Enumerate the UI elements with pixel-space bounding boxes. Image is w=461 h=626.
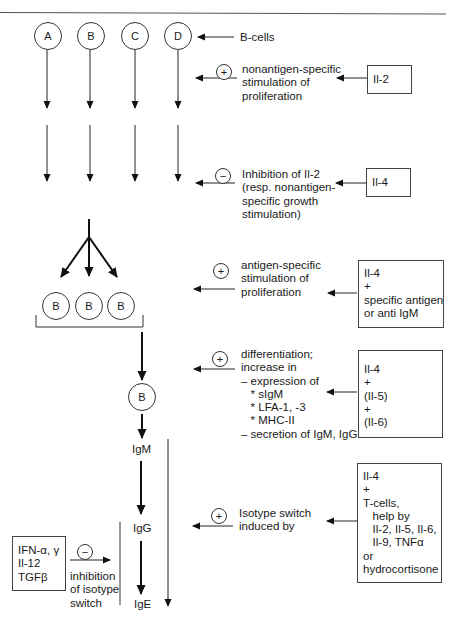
b-cell-a: A	[34, 22, 62, 50]
b-cells-label: B-cells	[240, 31, 275, 44]
igm-label: IgM	[132, 443, 151, 456]
sign-glyph: +	[217, 354, 223, 365]
b-cell-b: B	[77, 22, 105, 50]
clonal-fan	[61, 219, 117, 277]
sign-glyph: −	[82, 547, 88, 558]
factor-box-il4-antigen: Il-4 + specific antigen or anti IgM	[358, 260, 444, 328]
factor-box-il4: Il-4	[366, 168, 411, 197]
step-3-text: antigen-specific stimulation of prolifer…	[241, 259, 321, 299]
minus-sign-icon: −	[215, 168, 231, 184]
plus-sign-icon: +	[213, 263, 229, 279]
ige-label: IgE	[134, 598, 151, 611]
cell-label: B	[87, 30, 94, 42]
sign-glyph: +	[218, 266, 224, 277]
plus-sign-icon: +	[212, 351, 228, 367]
sign-glyph: +	[221, 67, 227, 78]
factor-box-ifn-il12-tgfb: IFN-α, γ Il-12 TGFβ	[12, 536, 66, 591]
cell-label: B	[52, 300, 59, 312]
plus-sign-icon: +	[211, 508, 227, 524]
clonal-b-cell-2: B	[75, 292, 103, 320]
step-4-text: differentiation; increase in – expressio…	[241, 348, 357, 441]
cell-label: A	[44, 30, 51, 42]
step-arrows	[193, 37, 237, 526]
cell-label: B	[138, 391, 145, 403]
cell-label: C	[131, 30, 139, 42]
cell-label: D	[174, 30, 182, 42]
sign-glyph: −	[220, 171, 226, 182]
igg-label: IgG	[133, 522, 152, 535]
factor-box-il2: Il-2	[367, 65, 412, 94]
step-2-text: Inhibition of Il-2 (resp. nonantigen- sp…	[242, 168, 335, 221]
plus-sign-icon: +	[216, 64, 232, 80]
factor-box-isotype-switch: Il-4 + T-cells, help by Il-2, Il-5, Il-6…	[357, 463, 442, 583]
differentiated-b-cell: B	[128, 383, 156, 411]
proliferation-arrows-2	[47, 125, 178, 181]
step-1-text: nonantigen-specific stimulation of proli…	[242, 63, 341, 103]
inhibition-text: inhibition of isotype switch	[70, 570, 119, 610]
cell-label: B	[117, 300, 124, 312]
clonal-b-cell-1: B	[42, 292, 70, 320]
proliferation-arrows-1	[47, 50, 178, 108]
step-5-text: Isotype switch induced by	[239, 507, 311, 534]
b-cell-d: D	[164, 22, 192, 50]
minus-sign-icon: −	[77, 544, 93, 560]
differentiation-chain	[141, 332, 142, 594]
b-cell-c: C	[121, 22, 149, 50]
cell-label: B	[85, 300, 92, 312]
clonal-b-cell-3: B	[107, 292, 135, 320]
factor-box-il4-il5-il6: Il-4 + (Il-5) + (Il-6)	[358, 350, 443, 438]
sign-glyph: +	[216, 511, 222, 522]
top-rule	[0, 13, 446, 15]
